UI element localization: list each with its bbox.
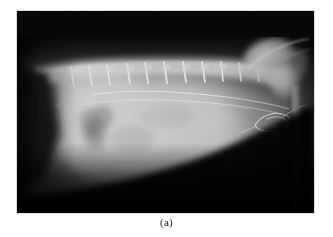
- figure-caption: (a): [0, 216, 333, 228]
- figure-panel: (a): [0, 0, 333, 237]
- radiograph-image: [17, 11, 314, 213]
- radiograph-canvas: [17, 11, 314, 213]
- film-grain-overlay: [17, 11, 314, 213]
